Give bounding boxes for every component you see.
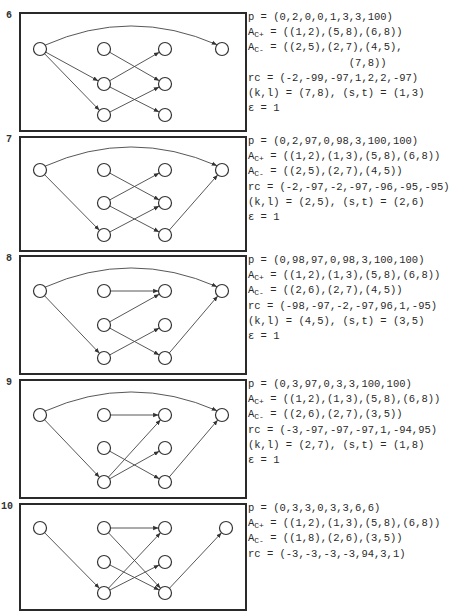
directed-edge [169, 175, 217, 230]
panel-number: 10 [1, 501, 13, 512]
graph-node [98, 285, 111, 298]
parameter-line: (k,l) = (2,5), (s,t) = (2,6) [248, 195, 450, 210]
parameter-line: ε = 1 [248, 101, 424, 116]
directed-edge [44, 296, 99, 354]
panel-parameters: p = (0,2,97,0,98,3,100,100)AC+ = ((1,2),… [248, 134, 450, 225]
parameter-line: (k,l) = (2,7), (s,t) = (1,8) [248, 438, 440, 453]
graph-node [216, 164, 229, 177]
graph-node [98, 556, 111, 569]
panel-number: 8 [6, 253, 12, 264]
parameter-line: AC+ = ((1,2),(1,3),(5,8),(6,8)) [248, 392, 440, 407]
graph-node [159, 587, 172, 600]
graph-node [98, 164, 111, 177]
parameter-line: (k,l) = (4,5), (s,t) = (3,5) [248, 314, 440, 329]
parameter-line: AC- = ((2,5),(2,7),(4,5)) [248, 164, 450, 179]
graph-node [220, 522, 233, 535]
parameter-line: AC+ = ((1,2),(1,3),(5,8),(6,8)) [248, 149, 450, 164]
arc-edge [45, 268, 217, 287]
graph-node [98, 319, 111, 332]
parameter-line: ε = 1 [248, 453, 440, 468]
graph-diagram [21, 257, 245, 373]
graph-node [159, 522, 172, 535]
parameter-line: rc = (-3,-3,-3,-3,94,3,1) [248, 547, 440, 562]
directed-edge [169, 420, 218, 477]
graph-node [216, 43, 229, 56]
graph-node [98, 352, 111, 365]
panel-number: 7 [6, 134, 12, 145]
parameter-line: ε = 1 [248, 329, 440, 344]
parameter-line: ε = 1 [248, 210, 450, 225]
network-diagram-panel [19, 136, 247, 252]
parameter-line: AC- = ((2,6),(2,7),(4,5)) [248, 283, 440, 298]
graph-node [34, 522, 47, 535]
graph-diagram [21, 14, 245, 130]
graph-node [159, 319, 172, 332]
arc-edge [45, 392, 217, 411]
arc-edge [45, 26, 217, 45]
graph-node [159, 409, 172, 422]
directed-edge [45, 175, 100, 231]
graph-node [159, 556, 172, 569]
parameter-line: rc = (-2,-97,-2,-97,-96,-95,-95) [248, 180, 450, 195]
directed-edge [169, 296, 218, 353]
graph-node [159, 476, 172, 489]
graph-node [98, 78, 111, 91]
directed-edge [169, 533, 221, 589]
graph-node [34, 409, 47, 422]
graph-node [98, 109, 111, 122]
graph-node [34, 285, 47, 298]
graph-diagram [21, 505, 245, 609]
graph-node [98, 43, 111, 56]
parameter-line: AC- = ((1,8),(2,6),(3,5)) [248, 531, 440, 546]
graph-node [98, 442, 111, 455]
graph-node [98, 522, 111, 535]
parameter-line: AC+ = ((1,2),(5,8),(6,8)) [248, 25, 424, 40]
graph-node [98, 409, 111, 422]
parameter-line: p = (0,3,97,0,3,3,100,100) [248, 377, 440, 392]
panel-number: 6 [6, 10, 12, 21]
graph-diagram [21, 381, 245, 497]
panel-parameters: p = (0,98,97,0,98,3,100,100)AC+ = ((1,2)… [248, 253, 440, 344]
parameter-line: p = (0,98,97,0,98,3,100,100) [248, 253, 440, 268]
graph-node [159, 442, 172, 455]
graph-diagram [21, 138, 245, 250]
directed-edge [46, 52, 99, 81]
parameter-line: AC- = ((2,6),(2,7),(3,5)) [248, 407, 440, 422]
panel-parameters: p = (0,2,0,0,1,3,3,100)AC+ = ((1,2),(5,8… [248, 10, 424, 116]
parameter-line: p = (0,3,3,0,3,3,6,6) [248, 501, 440, 516]
parameter-line: AC- = ((2,5),(2,7),(4,5), [248, 40, 424, 55]
graph-node [159, 78, 172, 91]
parameter-line: rc = (-98,-97,-2,-97,96,1,-95) [248, 299, 440, 314]
graph-node [159, 43, 172, 56]
graph-node [159, 109, 172, 122]
directed-edge [110, 294, 160, 322]
parameter-line: (7,8)) [248, 56, 424, 71]
panel-parameters: p = (0,3,97,0,3,3,100,100)AC+ = ((1,2),(… [248, 377, 440, 468]
network-diagram-panel [19, 379, 247, 499]
network-diagram-panel [19, 255, 247, 375]
graph-node [34, 164, 47, 177]
graph-node [98, 229, 111, 242]
panel-number: 9 [6, 377, 12, 388]
parameter-line: p = (0,2,0,0,1,3,3,100) [248, 10, 424, 25]
graph-node [159, 352, 172, 365]
network-diagram-panel [19, 503, 247, 611]
graph-node [216, 285, 229, 298]
parameter-line: p = (0,2,97,0,98,3,100,100) [248, 134, 450, 149]
parameter-line: AC+ = ((1,2),(1,3),(5,8),(6,8)) [248, 268, 440, 283]
network-diagram-panel [19, 12, 247, 132]
panel-parameters: p = (0,3,3,0,3,3,6,6)AC+ = ((1,2),(1,3),… [248, 501, 440, 562]
directed-edge [44, 420, 99, 478]
graph-node [98, 197, 111, 210]
graph-node [98, 476, 111, 489]
directed-edge [45, 54, 100, 111]
parameter-line: AC+ = ((1,2),(1,3),(5,8),(6,8)) [248, 516, 440, 531]
parameter-line: rc = (-2,-99,-97,1,2,2,-97) [248, 71, 424, 86]
graph-node [34, 43, 47, 56]
directed-edge [108, 420, 160, 477]
directed-edge [45, 533, 100, 589]
graph-node [216, 409, 229, 422]
parameter-line: rc = (-3,-97,-97,-97,1,-94,95) [248, 423, 440, 438]
graph-node [159, 164, 172, 177]
graph-node [159, 229, 172, 242]
